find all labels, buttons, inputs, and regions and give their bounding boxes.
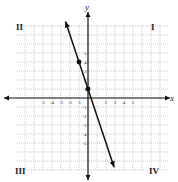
quadrant-label-IV: IV [149, 166, 160, 176]
axes [4, 12, 170, 180]
quadrant-label-I: I [151, 22, 155, 32]
marked-point [86, 87, 91, 92]
svg-text:3: 3 [84, 69, 87, 74]
svg-text:-1: -1 [82, 105, 87, 110]
coordinate-plane: -5-4-3-2-1234554321-1-2-3-4-5 x y II I I… [0, 0, 178, 182]
svg-text:5: 5 [132, 100, 135, 105]
svg-text:3: 3 [114, 100, 117, 105]
svg-text:-4: -4 [50, 100, 55, 105]
quadrant-label-II: II [16, 22, 24, 32]
quadrant-label-III: III [15, 166, 26, 176]
svg-text:-5: -5 [82, 141, 87, 146]
y-axis-label: y [84, 2, 89, 12]
svg-text:2: 2 [105, 100, 108, 105]
plotted-line [65, 22, 115, 168]
svg-text:-3: -3 [59, 100, 64, 105]
svg-text:-4: -4 [82, 132, 87, 137]
svg-text:5: 5 [84, 51, 87, 56]
svg-text:-5: -5 [41, 100, 46, 105]
svg-text:4: 4 [84, 60, 87, 65]
svg-text:4: 4 [123, 100, 126, 105]
svg-text:-2: -2 [82, 114, 87, 119]
x-axis-label: x [169, 93, 174, 103]
svg-text:-2: -2 [68, 100, 73, 105]
svg-text:-3: -3 [82, 123, 87, 128]
svg-text:-1: -1 [77, 100, 82, 105]
marked-point [77, 60, 82, 65]
